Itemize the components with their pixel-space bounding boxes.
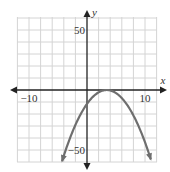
y-tick-label: 50 <box>74 24 86 36</box>
y-axis-down-arrow-icon <box>84 163 91 170</box>
y-axis-up-arrow-icon <box>84 10 91 17</box>
x-axis-right-arrow-icon <box>160 87 167 94</box>
y-tick-label: −50 <box>68 144 86 156</box>
curve-right-arrow-icon <box>146 153 152 161</box>
x-tick-label: 10 <box>140 92 152 104</box>
axis-labels: yx−101050−50 <box>20 6 165 156</box>
x-axis-left-arrow-icon <box>10 87 17 94</box>
parabola-graph: yx−101050−50 <box>0 0 170 172</box>
x-axis-label: x <box>160 74 166 86</box>
x-tick-label: −10 <box>20 92 38 104</box>
axes <box>10 10 167 170</box>
y-axis-label: y <box>91 6 97 18</box>
